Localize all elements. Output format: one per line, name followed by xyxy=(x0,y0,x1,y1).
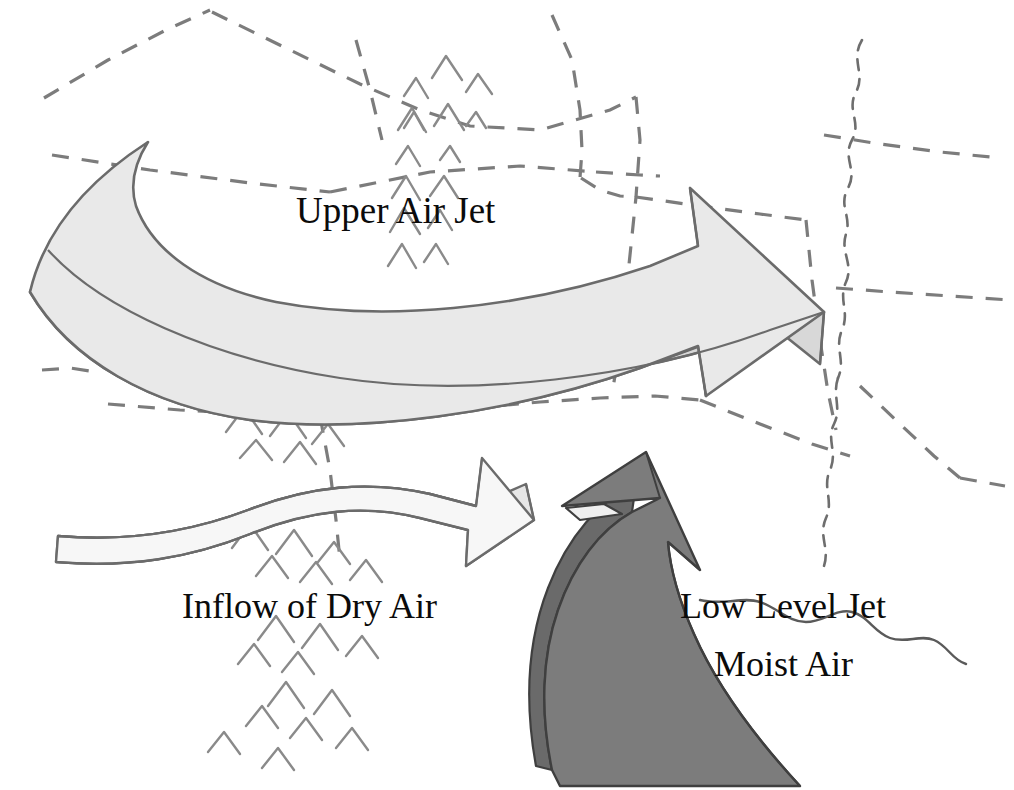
label-low-level-jet: Low Level Jet xyxy=(680,586,886,626)
diagram-canvas: Upper Air Jet Inflow of Dry Air Low Leve… xyxy=(0,0,1014,790)
weather-schematic-diagram: Upper Air Jet Inflow of Dry Air Low Leve… xyxy=(0,0,1014,790)
label-moist-air: Moist Air xyxy=(714,644,853,684)
label-upper-air-jet: Upper Air Jet xyxy=(296,190,496,231)
label-inflow-dry-air: Inflow of Dry Air xyxy=(182,586,437,626)
